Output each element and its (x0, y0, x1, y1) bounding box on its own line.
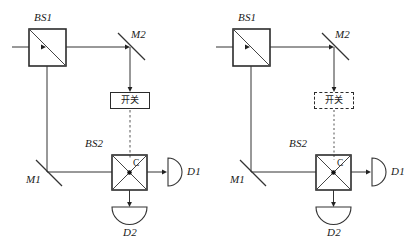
d1-detector-body (168, 158, 182, 186)
d2-detector-body (316, 207, 351, 224)
label-d1: D1 (187, 166, 201, 177)
label-bs1: BS1 (34, 12, 52, 23)
d1-detector-body (372, 158, 386, 186)
label-m1: M1 (230, 174, 245, 185)
diagram-panel-right: BS1 M2 BS2 M1 C D1 D2 开关 (204, 0, 408, 246)
label-point-c: C (337, 159, 344, 169)
figure-canvas: BS1 M2 BS2 M1 C D1 D2 开关 (0, 0, 408, 246)
label-m2: M2 (335, 29, 350, 40)
arrow-into-m2 (125, 45, 130, 50)
label-bs2: BS2 (289, 138, 307, 149)
switch-element[interactable]: 开关 (314, 92, 354, 109)
label-d2: D2 (327, 227, 341, 238)
arrow-into-m2 (329, 45, 334, 50)
bs1-diagonal (233, 29, 270, 66)
d2-detector-body (112, 207, 147, 224)
arrow-into-d1 (366, 170, 371, 175)
point-c-marker (127, 170, 131, 174)
label-bs2: BS2 (85, 138, 103, 149)
label-m1: M1 (26, 174, 41, 185)
label-d1: D1 (391, 166, 405, 177)
point-c-marker (331, 170, 335, 174)
label-d2: D2 (123, 227, 137, 238)
label-point-c: C (133, 159, 140, 169)
arrow-into-d2 (331, 202, 336, 207)
label-bs1: BS1 (238, 12, 256, 23)
diagram-panel-left: BS1 M2 BS2 M1 C D1 D2 开关 (0, 0, 204, 246)
bs1-diagonal (29, 29, 66, 66)
optics-layout-right (204, 0, 408, 246)
arrow-into-d1 (162, 170, 167, 175)
label-m2: M2 (131, 29, 146, 40)
arrow-into-d2 (127, 202, 132, 207)
switch-element[interactable]: 开关 (110, 92, 150, 109)
optics-layout-left (0, 0, 204, 246)
